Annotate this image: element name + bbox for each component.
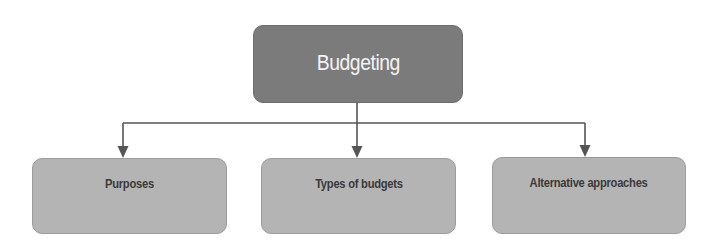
arrowhead-1	[118, 146, 129, 158]
child-node-alternative-approaches: Alternative approaches	[492, 157, 686, 234]
arrowhead-2	[352, 146, 363, 158]
child-node-types-of-budgets: Types of budgets	[261, 158, 456, 234]
child-node-label: Purposes	[105, 176, 154, 191]
root-node-label: Budgeting	[316, 50, 399, 76]
arrowhead-3	[580, 145, 591, 157]
root-node-budgeting: Budgeting	[253, 25, 463, 103]
child-node-purposes: Purposes	[32, 158, 227, 234]
child-node-label: Alternative approaches	[530, 175, 648, 190]
child-node-label: Types of budgets	[315, 176, 403, 191]
